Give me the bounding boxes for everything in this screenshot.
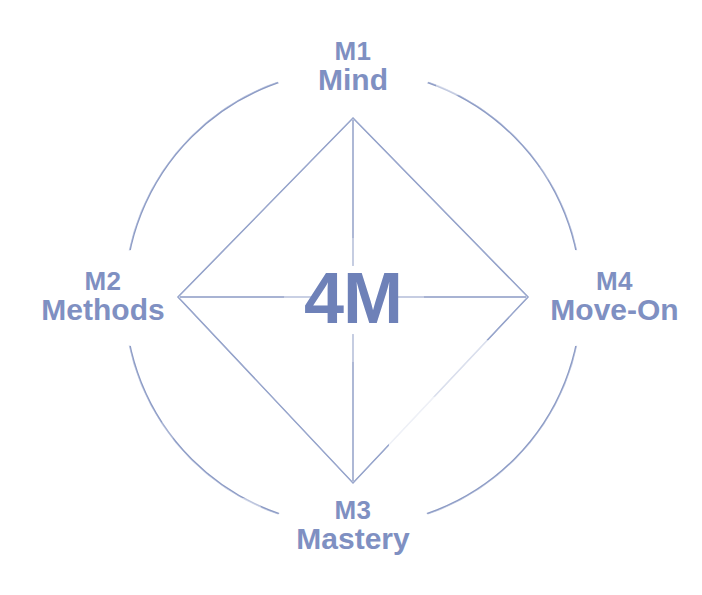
node-name-m2: Methods — [18, 295, 188, 326]
node-label-m4-move-on[interactable]: M4 Move-On — [522, 268, 702, 325]
node-code-m1: M1 — [253, 38, 453, 65]
node-label-m3-mastery[interactable]: M3 Mastery — [253, 497, 453, 554]
node-label-m2-methods[interactable]: M2 Methods — [18, 268, 188, 325]
node-name-m4: Move-On — [522, 295, 702, 326]
diagram-canvas: 4M M1 Mind M2 Methods M4 Move-On M3 Mast… — [0, 0, 702, 595]
node-code-m4: M4 — [522, 268, 702, 295]
node-code-m3: M3 — [253, 497, 453, 524]
node-name-m3: Mastery — [253, 524, 453, 555]
node-name-m1: Mind — [253, 65, 453, 96]
center-label: 4M — [253, 258, 453, 338]
node-code-m2: M2 — [18, 268, 188, 295]
node-label-m1-mind[interactable]: M1 Mind — [253, 38, 453, 95]
